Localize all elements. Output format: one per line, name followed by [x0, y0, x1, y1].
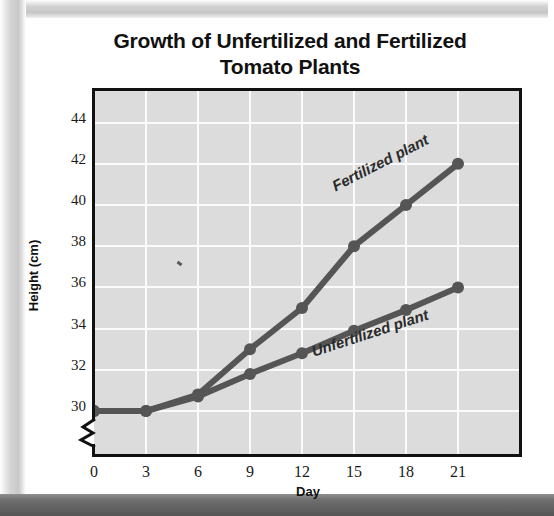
y-axis-tick-label: 40: [50, 192, 86, 209]
x-axis-tick-label: 21: [438, 463, 478, 481]
y-axis-line-upper: [92, 88, 95, 421]
chart-title: Growth of Unfertilized and Fertilized To…: [40, 28, 540, 80]
x-axis-tick-label: 3: [126, 463, 166, 481]
y-axis-tick-label: 34: [50, 316, 86, 333]
data-point-marker: [244, 343, 256, 355]
x-axis-line: [92, 454, 522, 457]
x-axis-title: Day: [94, 484, 522, 499]
plot-inner: [94, 91, 519, 454]
y-axis-tick-labels: 3032343638404244: [46, 0, 86, 516]
data-point-marker: [348, 240, 360, 252]
frame-edge-left: [0, 0, 26, 516]
frame-edge-right: [548, 0, 554, 516]
data-point-marker: [452, 281, 464, 293]
x-axis-tick-label: 15: [334, 463, 374, 481]
y-axis-tick-label: 38: [50, 233, 86, 250]
plot-area: [94, 88, 522, 454]
chart-title-line-2: Tomato Plants: [40, 54, 540, 80]
data-point-marker: [296, 302, 308, 314]
x-axis-tick-label: 18: [386, 463, 426, 481]
x-axis-tick-label: 9: [230, 463, 270, 481]
data-point-marker: [140, 405, 152, 417]
data-point-marker: [452, 158, 464, 170]
x-axis-tick-label: 0: [74, 463, 114, 481]
data-point-marker: [400, 199, 412, 211]
y-axis-tick-label: 42: [50, 151, 86, 168]
y-axis-title: Height (cm): [26, 216, 41, 336]
data-point-marker: [192, 391, 204, 403]
chart-title-line-1: Growth of Unfertilized and Fertilized: [40, 28, 540, 54]
y-axis-tick-label: 44: [50, 110, 86, 127]
x-axis-tick-label: 6: [178, 463, 218, 481]
data-point-marker: [296, 347, 308, 359]
chart-screenshot: Growth of Unfertilized and Fertilized To…: [0, 0, 554, 516]
series-svg: [94, 91, 519, 454]
x-axis-tick-label: 12: [282, 463, 322, 481]
y-axis-tick-label: 30: [50, 398, 86, 415]
y-axis-tick-label: 36: [50, 274, 86, 291]
y-axis-tick-label: 32: [50, 357, 86, 374]
data-point-marker: [244, 368, 256, 380]
